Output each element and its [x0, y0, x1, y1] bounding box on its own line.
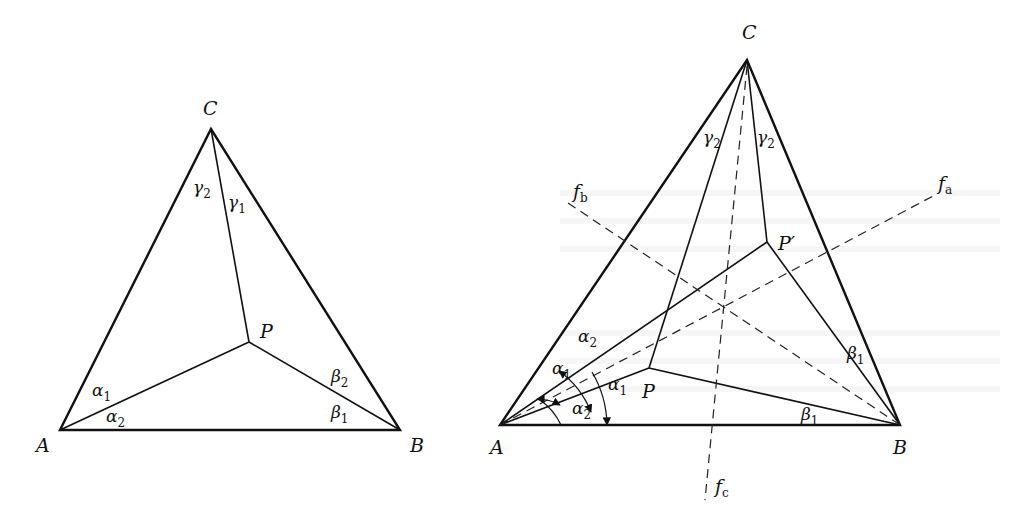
- line-label-fc: fc: [713, 475, 729, 500]
- angle-label-alpha2-lower: α2: [572, 398, 591, 422]
- angle-label-alpha2-upper: α2: [578, 326, 597, 350]
- vertex-label-a: A: [34, 434, 50, 456]
- vertex-label-p: P: [641, 380, 656, 402]
- angle-label-gamma2-left: γ2: [703, 127, 721, 151]
- vertex-label-c: C: [742, 21, 757, 43]
- segment-bp: [249, 342, 400, 430]
- line-label-fa: fa: [936, 172, 952, 197]
- line-label-fb: fb: [571, 180, 588, 205]
- angle-label-gamma1: γ1: [228, 192, 246, 216]
- vertex-label-a: A: [488, 436, 504, 458]
- segment-pc: [649, 60, 747, 368]
- angle-label-beta2: β2: [330, 366, 348, 390]
- diagram-canvas: C A B P α1 α2 β2 β1 γ2 γ1 C A B P P′: [0, 0, 1011, 531]
- angle-label-gamma2: γ2: [193, 177, 211, 201]
- arc-alpha1-lower: [592, 372, 607, 425]
- vertex-label-b: B: [409, 434, 424, 456]
- angle-label-alpha1: α1: [92, 380, 111, 404]
- vertex-label-b: B: [892, 436, 907, 458]
- figure-right: C A B P P′ fb fa fc α2 α1 α1 α2 β1 β1 γ2…: [488, 21, 952, 500]
- segment-p-prime-c: [747, 60, 767, 242]
- segment-pb: [649, 368, 900, 425]
- vertex-label-p-prime: P′: [777, 232, 796, 254]
- angle-label-alpha2: α2: [106, 406, 125, 430]
- vertex-label-p: P: [259, 320, 274, 342]
- segment-ap: [60, 342, 249, 430]
- figure-left: C A B P α1 α2 β2 β1 γ2 γ1: [34, 97, 424, 456]
- vertex-label-c: C: [203, 97, 218, 119]
- angle-label-beta1: β1: [330, 402, 348, 426]
- angle-label-gamma2-right: γ2: [757, 127, 775, 151]
- triangle-abc: [60, 129, 400, 430]
- background-bleed-through: [560, 190, 1000, 392]
